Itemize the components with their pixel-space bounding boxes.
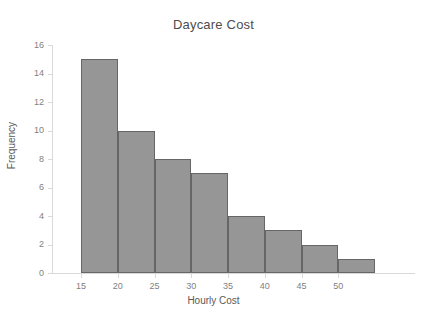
histogram-chart: Daycare Cost 0246810121416 1520253035404… <box>0 0 427 319</box>
x-axis-tick-label: 40 <box>245 281 285 291</box>
histogram-bar <box>155 159 192 273</box>
y-axis-tick-label: 12 <box>20 98 44 107</box>
histogram-bar <box>81 59 118 273</box>
chart-title: Daycare Cost <box>0 17 427 32</box>
y-axis-tick-label: 10 <box>20 126 44 135</box>
x-axis-title: Hourly Cost <box>52 295 375 306</box>
y-axis-title: Frequency <box>6 116 17 176</box>
y-axis-tick-label: 6 <box>20 183 44 192</box>
y-axis-tick <box>48 273 53 274</box>
x-axis-tick <box>338 273 339 278</box>
x-axis-tick-label: 25 <box>135 281 175 291</box>
x-axis-tick-label: 50 <box>318 281 358 291</box>
x-axis-tick <box>81 273 82 278</box>
y-axis-tick-label: 2 <box>20 240 44 249</box>
histogram-bar <box>338 259 375 273</box>
y-axis-tick-label: 8 <box>20 155 44 164</box>
histogram-bar <box>191 173 228 273</box>
x-axis-tick <box>155 273 156 278</box>
x-axis-tick-label: 15 <box>61 281 101 291</box>
y-axis-tick-label: 0 <box>20 269 44 278</box>
y-axis-tick-label: 4 <box>20 212 44 221</box>
x-axis-tick-label: 20 <box>98 281 138 291</box>
y-axis-tick-label: 14 <box>20 69 44 78</box>
x-axis-tick <box>191 273 192 278</box>
histogram-bar <box>265 230 302 273</box>
plot-area <box>52 45 415 273</box>
y-axis-tick-label: 16 <box>20 41 44 50</box>
x-axis-tick <box>265 273 266 278</box>
histogram-bar <box>228 216 265 273</box>
histogram-bar <box>118 131 155 274</box>
x-axis-tick <box>118 273 119 278</box>
x-axis-tick <box>228 273 229 278</box>
histogram-bar <box>302 245 339 274</box>
x-axis-tick-label: 30 <box>171 281 211 291</box>
x-axis-line <box>52 273 415 274</box>
x-axis-tick-label: 35 <box>208 281 248 291</box>
x-axis-tick-label: 45 <box>282 281 322 291</box>
x-axis-tick <box>302 273 303 278</box>
